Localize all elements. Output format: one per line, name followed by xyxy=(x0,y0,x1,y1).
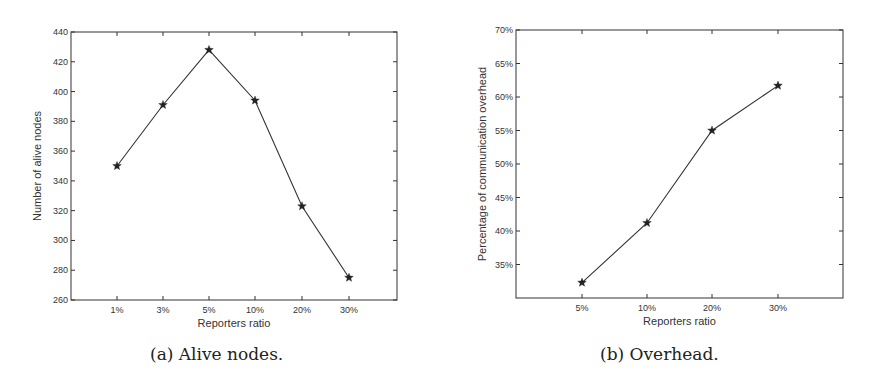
x-tick-label: 30% xyxy=(340,305,358,315)
star-marker-icon xyxy=(708,126,717,134)
y-tick-label: 260 xyxy=(53,295,68,305)
star-marker-icon xyxy=(345,273,354,281)
x-tick-label: 3% xyxy=(156,305,169,315)
star-marker-icon xyxy=(298,202,307,210)
plot-area xyxy=(71,32,397,300)
y-tick-label: 65% xyxy=(495,59,513,69)
y-axis-label: Number of alive nodes xyxy=(31,110,43,221)
x-tick-label: 5% xyxy=(202,305,215,315)
data-line xyxy=(117,50,349,278)
data-line xyxy=(582,86,778,283)
y-axis-label: Percentage of communication overhead xyxy=(476,67,488,261)
figure: 2602803003203403603804004204401%3%5%10%2… xyxy=(0,0,880,387)
y-tick-label: 60% xyxy=(495,92,513,102)
chart-alive-nodes: 2602803003203403603804004204401%3%5%10%2… xyxy=(31,27,397,329)
y-tick-label: 400 xyxy=(53,87,68,97)
x-tick-label: 20% xyxy=(293,305,311,315)
x-tick-label: 1% xyxy=(110,305,123,315)
y-tick-label: 35% xyxy=(495,260,513,270)
y-tick-label: 70% xyxy=(495,25,513,35)
star-marker-icon xyxy=(205,45,214,53)
caption-overhead: (b) Overhead. xyxy=(600,344,719,364)
y-tick-label: 420 xyxy=(53,57,68,67)
x-tick-label: 5% xyxy=(575,303,588,313)
plot-area xyxy=(516,30,843,298)
x-tick-label: 20% xyxy=(703,303,721,313)
y-tick-label: 280 xyxy=(53,265,68,275)
y-tick-label: 340 xyxy=(53,176,68,186)
x-tick-label: 10% xyxy=(638,303,656,313)
y-tick-label: 45% xyxy=(495,193,513,203)
y-tick-label: 320 xyxy=(53,206,68,216)
x-tick-label: 10% xyxy=(246,305,264,315)
y-tick-label: 300 xyxy=(53,235,68,245)
y-tick-label: 440 xyxy=(53,27,68,37)
y-tick-label: 380 xyxy=(53,116,68,126)
chart-overhead: 35%40%45%50%55%60%65%70%5%10%20%30%Repor… xyxy=(476,25,843,327)
y-tick-label: 50% xyxy=(495,159,513,169)
x-axis-label: Reporters ratio xyxy=(198,317,271,329)
y-tick-label: 55% xyxy=(495,126,513,136)
caption-alive-nodes: (a) Alive nodes. xyxy=(150,344,283,364)
x-axis-label: Reporters ratio xyxy=(643,315,716,327)
x-tick-label: 30% xyxy=(769,303,787,313)
y-tick-label: 360 xyxy=(53,146,68,156)
y-tick-label: 40% xyxy=(495,226,513,236)
